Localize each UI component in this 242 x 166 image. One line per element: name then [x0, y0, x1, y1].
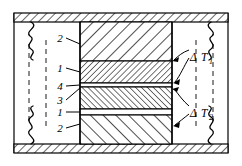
delta-t1-subscript: 1 — [209, 57, 213, 66]
delta-t2-delta-symbol: Δ — [189, 107, 197, 119]
stack-layer-1-top — [80, 61, 172, 83]
delta-t1-leaders — [174, 50, 189, 82]
left-bellows — [29, 22, 46, 144]
delta-t2-subscript: 2 — [209, 113, 213, 122]
callout-label-3: 3 — [56, 94, 63, 106]
top-plate — [14, 13, 228, 22]
delta-t1-t-symbol: T — [201, 51, 209, 63]
callout-label-1-bottom: 1 — [57, 106, 63, 118]
schematic-diagram: 2 1 4 3 1 2 Δ T 1 Δ T 2 — [0, 0, 242, 166]
callout-label-4-gap: 4 — [57, 80, 63, 92]
callout-leaders-left — [66, 38, 80, 128]
stack-layer-3 — [80, 87, 172, 109]
delta-t2-t-symbol: T — [201, 107, 209, 119]
delta-t2-leaders — [175, 90, 189, 125]
stack-layer-1-bottom — [80, 109, 172, 115]
callout-label-2-top: 2 — [57, 32, 63, 44]
delta-t2-label: Δ T 2 — [189, 107, 213, 122]
delta-t1-delta-symbol: Δ — [189, 51, 197, 63]
stack-layer-4-gap — [80, 83, 172, 87]
stack-layer-2-top — [80, 22, 172, 61]
bottom-plate — [14, 144, 228, 153]
callout-label-2-bottom: 2 — [57, 122, 63, 134]
stack-layer-2-bottom — [80, 115, 172, 144]
right-bellows — [196, 22, 213, 144]
callout-label-1-top: 1 — [57, 62, 63, 74]
figure-container: 2 1 4 3 1 2 Δ T 1 Δ T 2 — [0, 0, 242, 166]
